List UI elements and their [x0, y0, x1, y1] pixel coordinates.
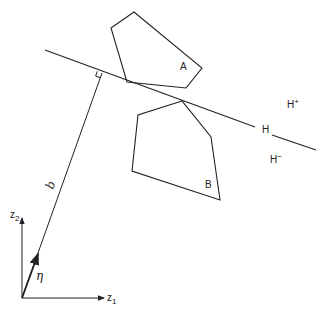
- eta-label: η: [36, 269, 44, 283]
- polygon-b-label: B: [205, 179, 212, 190]
- right-angle-marker: [96, 71, 101, 77]
- diagram-canvas: A B H H+ H− b η z1 z2: [0, 0, 326, 314]
- distance-b-label: b: [43, 179, 59, 191]
- hyperplane-line-left: [45, 50, 255, 127]
- z1-axis-label: z1: [107, 292, 117, 306]
- polygon-a: [111, 12, 202, 88]
- hyperplane-line-right: [272, 135, 316, 150]
- hyperplane-label: H: [262, 124, 269, 135]
- z2-axis-label: z2: [10, 209, 20, 223]
- diagram-svg: A B H H+ H− b η z1 z2: [0, 0, 326, 314]
- polygon-a-label: A: [180, 61, 187, 72]
- halfspace-negative-label: H−: [270, 152, 282, 165]
- halfspace-positive-label: H+: [287, 97, 299, 110]
